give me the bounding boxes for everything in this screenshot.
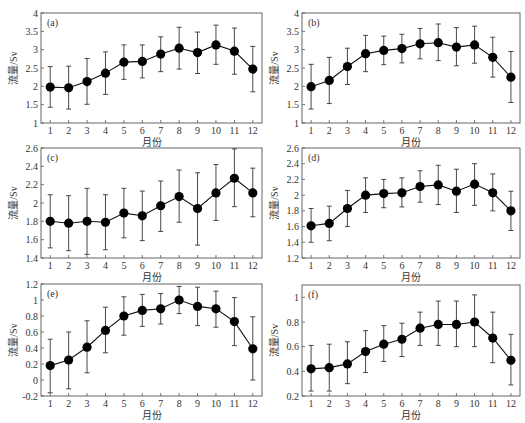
y-axis-label: 流量/Sv (7, 186, 19, 219)
x-tick-label: 4 (103, 260, 108, 271)
data-point (230, 47, 239, 56)
data-point (506, 73, 515, 82)
x-tick-label: 8 (436, 398, 441, 409)
x-tick-label: 12 (506, 125, 516, 136)
plot-frame (302, 13, 520, 123)
x-tick-label: 1 (48, 398, 53, 409)
data-point (361, 347, 370, 356)
data-point (175, 295, 184, 304)
y-tick-label: 3 (294, 44, 299, 55)
y-tick-label: 0.4 (26, 343, 39, 354)
data-point (248, 65, 257, 74)
data-point (325, 219, 334, 228)
y-tick-label: 1.6 (287, 221, 300, 232)
x-tick-label: 2 (327, 398, 332, 409)
series-line (50, 300, 253, 366)
y-tick-label: 2.2 (287, 174, 300, 185)
x-tick-label: 3 (345, 398, 350, 409)
y-tick-label: 0.6 (287, 341, 300, 352)
y-tick-label: 0.6 (26, 327, 39, 338)
x-tick-label: 1 (48, 260, 53, 271)
x-tick-label: 4 (363, 260, 368, 271)
y-tick-label: 2.2 (26, 179, 39, 190)
y-tick-label: 1.6 (26, 234, 39, 245)
data-point (101, 218, 110, 227)
x-tick-label: 12 (506, 260, 516, 271)
x-tick-label: 3 (345, 125, 350, 136)
data-point (119, 311, 128, 320)
x-tick-label: 3 (85, 398, 90, 409)
panel-label: (c) (47, 152, 58, 164)
x-tick-label: 7 (418, 398, 423, 409)
data-point (82, 217, 91, 226)
data-point (434, 180, 443, 189)
data-point (434, 320, 443, 329)
y-tick-label: 1.5 (287, 99, 300, 110)
data-point (379, 189, 388, 198)
panel-label: (a) (47, 17, 58, 29)
data-point (397, 335, 406, 344)
x-tick-label: 6 (399, 398, 404, 409)
y-tick-label: 2.4 (287, 158, 300, 169)
data-point (101, 326, 110, 335)
x-tick-label: 4 (363, 398, 368, 409)
x-tick-label: 5 (121, 260, 126, 271)
panel-f: 0.20.40.60.81123456789101112月份流量/Sv(f) (268, 285, 520, 421)
data-point (379, 46, 388, 55)
y-tick-label: 2 (33, 81, 38, 92)
y-tick-label: 1.4 (26, 253, 39, 264)
y-tick-label: 3.5 (26, 26, 39, 37)
data-point (434, 38, 443, 47)
x-axis-label: 月份 (401, 272, 421, 283)
y-tick-label: 2.5 (26, 63, 39, 74)
x-tick-label: 10 (211, 125, 221, 136)
data-point (306, 82, 315, 91)
x-tick-label: 9 (195, 125, 200, 136)
x-tick-label: 9 (454, 260, 459, 271)
y-tick-label: 1.2 (26, 279, 39, 290)
x-tick-label: 6 (140, 260, 145, 271)
x-tick-label: 9 (195, 398, 200, 409)
x-tick-label: 6 (140, 398, 145, 409)
data-point (325, 363, 334, 372)
x-tick-label: 7 (158, 125, 163, 136)
y-tick-label: 3.5 (287, 26, 300, 37)
plot-frame (41, 284, 262, 396)
x-tick-label: 1 (48, 125, 53, 136)
x-tick-label: 3 (345, 260, 350, 271)
data-point (138, 211, 147, 220)
data-point (506, 206, 515, 215)
series-line (50, 178, 253, 223)
x-tick-label: 12 (506, 398, 516, 409)
data-point (46, 82, 55, 91)
y-axis-label: 流量/Sv (268, 51, 280, 84)
x-tick-label: 10 (470, 398, 480, 409)
series-line (50, 45, 253, 88)
y-tick-label: 2 (33, 198, 38, 209)
x-tick-label: 4 (103, 398, 108, 409)
y-tick-label: 1 (33, 118, 38, 129)
panel-c: 1.41.61.822.22.42.6123456789101112月份流量/S… (7, 143, 262, 284)
x-tick-label: 6 (399, 125, 404, 136)
data-point (193, 302, 202, 311)
y-axis-label: 流量/Sv (7, 323, 19, 356)
data-point (193, 48, 202, 57)
x-tick-label: 5 (381, 260, 386, 271)
y-tick-label: 0.8 (287, 317, 300, 328)
x-tick-label: 9 (454, 398, 459, 409)
x-tick-label: 8 (436, 260, 441, 271)
data-point (64, 83, 73, 92)
data-point (175, 192, 184, 201)
x-tick-label: 10 (211, 398, 221, 409)
y-tick-label: 0.2 (287, 391, 300, 402)
data-point (415, 324, 424, 333)
data-point (361, 191, 370, 200)
x-tick-label: 4 (363, 125, 368, 136)
data-point (306, 221, 315, 230)
y-tick-label: 4 (33, 8, 38, 19)
data-point (361, 49, 370, 58)
x-tick-label: 5 (121, 398, 126, 409)
x-tick-label: 5 (121, 125, 126, 136)
x-tick-label: 2 (66, 125, 71, 136)
y-tick-label: 2 (294, 81, 299, 92)
